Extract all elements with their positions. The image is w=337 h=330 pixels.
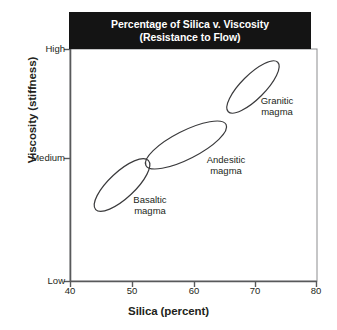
series-label-granitic-line-2: magma: [249, 106, 305, 117]
y-axis-title: Viscosity (stiffness): [26, 10, 38, 210]
plot-frame: [70, 49, 317, 281]
y-tick-label-high: High: [45, 43, 65, 54]
x-tick-label-70: 70: [235, 285, 275, 296]
series-label-basaltic-line-2: magma: [120, 205, 180, 216]
series-label-andesitic-magma: Andesitic magma: [195, 154, 257, 176]
x-tick-label-80: 80: [296, 285, 336, 296]
series-label-andesitic-line-2: magma: [195, 165, 257, 176]
series-label-granitic-magma: Granitic magma: [249, 95, 305, 117]
chart-title-banner: Percentage of Silica v. Viscosity (Resis…: [69, 12, 311, 49]
y-axis-title-container: Viscosity (stiffness): [26, 10, 46, 210]
x-tick-label-60: 60: [174, 285, 214, 296]
x-axis-title: Silica (percent): [0, 305, 337, 317]
series-label-granitic-line-1: Granitic: [249, 95, 305, 106]
series-label-andesitic-line-1: Andesitic: [195, 154, 257, 165]
series-label-basaltic-magma: Basaltic magma: [120, 194, 180, 216]
silica-viscosity-chart: Percentage of Silica v. Viscosity (Resis…: [0, 0, 337, 330]
series-label-basaltic-line-1: Basaltic: [120, 194, 180, 205]
x-tick-label-40: 40: [50, 285, 90, 296]
x-tick-label-50: 50: [112, 285, 152, 296]
chart-title-line-2: (Resistance to Flow): [139, 31, 240, 44]
chart-title-line-1: Percentage of Silica v. Viscosity: [111, 18, 269, 31]
